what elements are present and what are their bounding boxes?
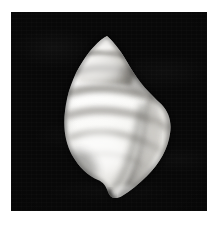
page-root bbox=[0, 0, 221, 225]
gastropod-shell-image bbox=[11, 12, 207, 211]
shell-body-group bbox=[11, 12, 207, 211]
left-rim-falloff bbox=[55, 12, 95, 211]
specimen-photograph-plate bbox=[11, 12, 207, 211]
columella-spot-upper bbox=[148, 122, 160, 142]
lower-left-shadow bbox=[53, 150, 97, 194]
